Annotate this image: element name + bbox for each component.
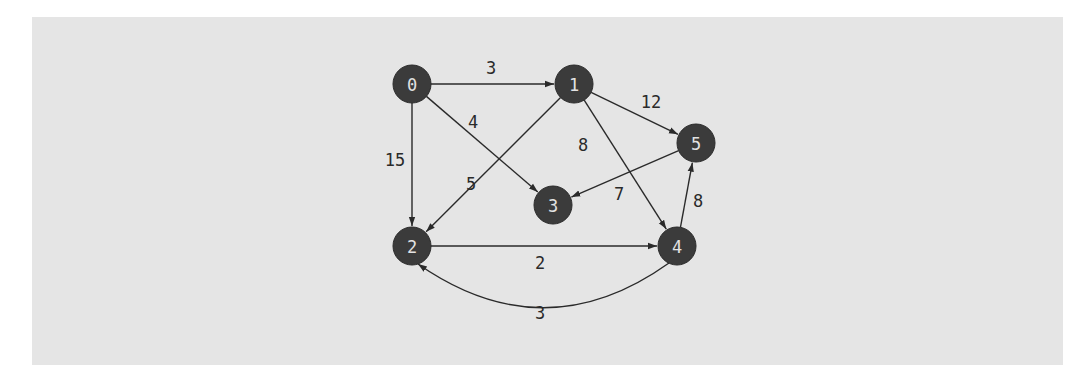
node-label: 2 xyxy=(407,237,417,257)
nodes-layer: 012345 xyxy=(393,65,715,265)
edge-0-to-3 xyxy=(426,96,537,192)
node-0: 0 xyxy=(393,65,431,103)
edge-weight-4-to-2: 3 xyxy=(535,303,545,323)
node-label: 3 xyxy=(548,196,558,216)
edge-weight-0-to-3: 4 xyxy=(468,112,478,132)
edge-weight-2-to-4: 2 xyxy=(535,253,545,273)
edge-4-to-5 xyxy=(680,163,692,228)
node-label: 1 xyxy=(569,75,579,95)
node-3: 3 xyxy=(534,186,572,224)
node-4: 4 xyxy=(658,227,696,265)
node-2: 2 xyxy=(393,227,431,265)
edge-weight-4-to-5: 8 xyxy=(693,191,703,211)
edge-weight-1-to-5: 12 xyxy=(641,92,661,112)
node-1: 1 xyxy=(555,65,593,103)
edge-weight-0-to-1: 3 xyxy=(486,58,496,78)
node-label: 0 xyxy=(407,75,417,95)
node-5: 5 xyxy=(677,124,715,162)
edge-weight-5-to-3: 7 xyxy=(614,184,624,204)
edge-5-to-3 xyxy=(571,151,678,197)
node-label: 4 xyxy=(672,237,682,257)
graph-canvas: 315458127823 012345 xyxy=(0,0,1090,383)
edge-1-to-5 xyxy=(591,92,678,134)
node-label: 5 xyxy=(691,134,701,154)
edge-weight-0-to-2: 15 xyxy=(385,150,405,170)
edge-weight-1-to-4: 8 xyxy=(578,135,588,155)
edge-1-to-4 xyxy=(584,100,666,229)
edge-weight-1-to-2: 5 xyxy=(466,174,476,194)
